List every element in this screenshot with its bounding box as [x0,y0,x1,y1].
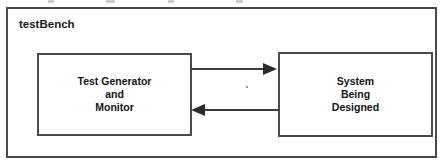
testbench-label: testBench [19,18,75,31]
testbench-frame: testBench Test Generator and Monitor Sys… [6,7,437,158]
block-test-generator-and-monitor-label: Test Generator and Monitor [78,75,152,114]
block-test-generator-and-monitor[interactable]: Test Generator and Monitor [37,53,192,136]
scan-artifact-top-text-remnant [0,0,447,5]
connector-stimulus-arrowhead-icon [263,63,277,75]
connector-response-arrowhead-icon [191,104,205,116]
block-system-being-designed[interactable]: System Being Designed [278,52,433,137]
scan-speck [246,86,248,88]
connector-stimulus-line [191,68,265,70]
diagram-canvas: testBench Test Generator and Monitor Sys… [0,0,447,166]
connector-response-line [204,109,279,111]
block-system-being-designed-label: System Being Designed [332,75,379,114]
